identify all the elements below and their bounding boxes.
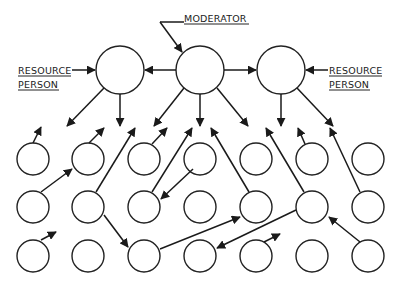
resource-person-left-node (96, 46, 144, 94)
participant-node (240, 240, 272, 272)
participant-node (352, 240, 384, 272)
moderator-pointer-arrow (160, 22, 182, 52)
participant-node (352, 143, 384, 175)
participant-node (296, 191, 328, 223)
resource-left-label-group: RESOURCE PERSON (18, 65, 95, 90)
resource-right-label-line1: RESOURCE (329, 65, 382, 76)
participant-node (17, 240, 49, 272)
moderator-node (176, 46, 224, 94)
participant-node (296, 240, 328, 272)
participant-node (240, 191, 272, 223)
participant-node (184, 143, 216, 175)
participant-node (128, 240, 160, 272)
participant-node (184, 240, 216, 272)
participant-node (296, 143, 328, 175)
participant-node (72, 143, 104, 175)
resource-left-label-line2: PERSON (18, 79, 58, 90)
participant-node (128, 143, 160, 175)
participant-node (17, 143, 49, 175)
participant-node (240, 143, 272, 175)
resource-left-label-line1: RESOURCE (18, 65, 71, 76)
moderator-label: MODERATOR (184, 13, 247, 24)
resource-right-label-group: RESOURCE PERSON (306, 65, 382, 90)
resource-person-right-node (257, 46, 305, 94)
participant-node (352, 191, 384, 223)
participant-node (72, 191, 104, 223)
participant-grid (17, 143, 384, 272)
participant-node (184, 191, 216, 223)
discussion-network-diagram: MODERATOR RESOURCE PERSON RESOURCE PERSO… (0, 0, 399, 289)
participant-node (17, 191, 49, 223)
participant-node (72, 240, 104, 272)
participant-node (128, 191, 160, 223)
resource-right-label-line2: PERSON (329, 79, 369, 90)
